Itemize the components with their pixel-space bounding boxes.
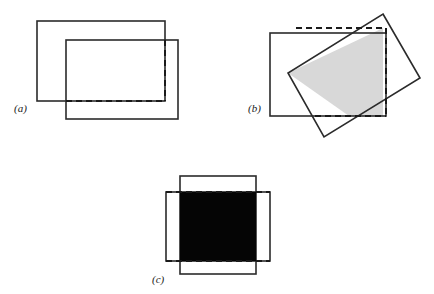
panel-a-label: (a) — [14, 102, 27, 115]
figure-container: (a) (b) (c) — [0, 0, 434, 294]
panel-b-label: (b) — [248, 102, 261, 115]
rectangle-intersection-figure: (a) (b) (c) — [0, 0, 434, 294]
panel-c-intersection-fill — [180, 192, 256, 261]
panel-c-label: (c) — [152, 273, 165, 286]
